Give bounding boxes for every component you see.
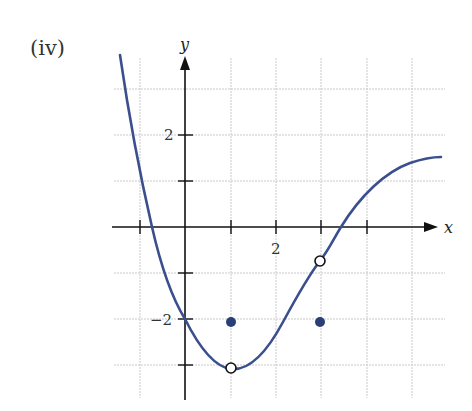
filled-dot-point xyxy=(315,317,325,327)
x-axis: x 2 xyxy=(112,218,453,258)
filled-dot-point xyxy=(226,317,236,327)
x-tick-label: 2 xyxy=(271,240,281,258)
y-axis: y 2 −2 xyxy=(150,35,193,400)
y-tick-label-neg2: −2 xyxy=(150,311,172,329)
y-axis-arrow-icon xyxy=(180,56,190,70)
open-circle-point xyxy=(226,363,236,373)
function-graph: x 2 y 2 −2 xyxy=(0,0,472,411)
grid xyxy=(114,58,445,398)
open-circle-point xyxy=(315,256,325,266)
y-axis-name: y xyxy=(179,35,190,54)
x-axis-arrow-icon xyxy=(424,222,438,232)
y-tick-label-2: 2 xyxy=(164,126,174,144)
x-axis-name: x xyxy=(444,218,453,237)
